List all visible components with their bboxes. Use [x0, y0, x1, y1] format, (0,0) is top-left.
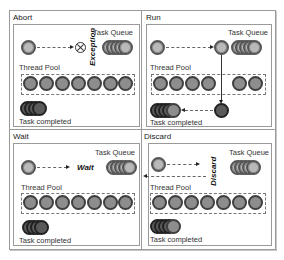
- horizontal-divider: [9, 129, 275, 130]
- wait-label: Wait: [77, 163, 94, 172]
- discard-task-queue-label: Task Queue: [229, 148, 269, 157]
- discard-return-line: [146, 176, 206, 177]
- abort-title: Abort: [13, 13, 32, 22]
- dashed-arrow-line: [37, 167, 67, 168]
- arrowhead-left-icon: [181, 108, 185, 112]
- abort-thread-pool-label: Thread Pool: [19, 63, 60, 72]
- wait-title: Wait: [13, 132, 29, 141]
- run-completed-label: Task completed: [150, 118, 202, 127]
- x-circle-icon: [75, 42, 86, 53]
- dashed-arrow-line: [185, 110, 213, 111]
- dashed-arrow-line: [166, 47, 211, 48]
- run-thread-pool-label: Thread Pool: [150, 63, 191, 72]
- incoming-task-circle: [21, 40, 36, 55]
- dashed-arrow-line: [37, 47, 71, 48]
- discard-thread-pool-label: Thread Pool: [150, 183, 191, 192]
- arrowhead-left-icon: [143, 174, 147, 178]
- wait-task-queue-label: Task Queue: [95, 148, 135, 157]
- wait-thread-pool-label: Thread Pool: [21, 183, 62, 192]
- wait-completed-label: Task completed: [19, 236, 71, 245]
- dequeued-task-circle: [214, 40, 229, 55]
- incoming-task-circle: [150, 40, 165, 55]
- arrowhead-icon: [66, 165, 70, 169]
- discard-title: Discard: [144, 132, 171, 141]
- arrowhead-icon: [70, 45, 74, 49]
- abort-completed-label: Task completed: [19, 117, 71, 126]
- dashed-arrow-line: [167, 164, 197, 165]
- run-title: Run: [146, 13, 161, 22]
- incoming-task-circle: [21, 160, 36, 175]
- abort-task-queue-label: Task Queue: [93, 28, 133, 37]
- arrowhead-icon: [196, 162, 200, 166]
- discard-label: Discard: [209, 157, 218, 186]
- running-task-circle: [214, 103, 229, 118]
- run-task-queue-label: Task Queue: [228, 28, 268, 37]
- incoming-task-circle: [151, 157, 166, 172]
- discard-completed-label: Task completed: [150, 235, 202, 244]
